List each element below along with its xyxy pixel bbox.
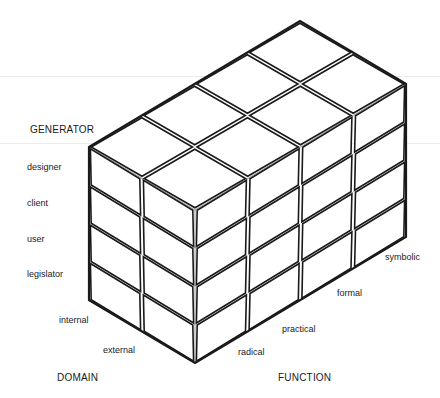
generator-label-client: client	[27, 199, 48, 208]
function-label-practical: practical	[282, 325, 316, 334]
function-label-radical: radical	[238, 348, 265, 357]
function-label-symbolic: symbolic	[385, 253, 420, 262]
domain-label-internal: internal	[59, 316, 89, 325]
block-matrix-cube	[0, 0, 440, 398]
generator-label-user: user	[27, 235, 45, 244]
function-axis-title: FUNCTION	[278, 373, 331, 383]
generator-axis-title: GENERATOR	[30, 125, 94, 135]
generator-label-designer: designer	[27, 163, 62, 172]
domain-label-external: external	[103, 346, 135, 355]
domain-axis-title: DOMAIN	[57, 373, 98, 383]
generator-label-legislator: legislator	[27, 270, 63, 279]
function-label-formal: formal	[337, 289, 362, 298]
diagram-canvas: GENERATOR designer client user legislato…	[0, 0, 440, 398]
